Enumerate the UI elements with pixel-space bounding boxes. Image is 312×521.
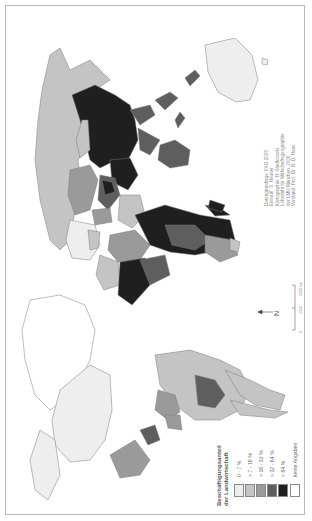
- legend-title-line1: Beschäftigungsanteil: [216, 445, 223, 506]
- north-label: N: [273, 311, 280, 316]
- legend-swatch-no-data: [290, 484, 300, 497]
- region-australia: [158, 140, 190, 168]
- scale-label-0: 0: [299, 331, 303, 333]
- credit-line: Vorstand: Prof. Dr. H.-D. Haas: [291, 133, 296, 206]
- legend-title-line2: der Landwirtschaft: [223, 445, 230, 506]
- region-eastern-europe: [88, 230, 100, 250]
- legend-swatch-0-7: [234, 484, 244, 497]
- region-central-america: [140, 425, 160, 445]
- region-north-africa: [108, 230, 150, 262]
- world-map: [0, 0, 312, 521]
- region-kazakhstan: [68, 165, 98, 215]
- legend-label-16-32: > 16 - 32 %: [258, 450, 264, 477]
- region-turkey: [92, 208, 112, 225]
- credit-line: Lehrstuhl für Wirtschaftsgeographie: [280, 133, 285, 206]
- legend-swatch-32-64: [267, 484, 277, 497]
- region-indochina: [138, 128, 160, 155]
- legend-label-0-7: 0 - 7 %: [236, 461, 242, 477]
- legend-swatch-7-16: [245, 484, 255, 497]
- region-greenland: [205, 38, 258, 102]
- region-ecuador: [165, 415, 182, 430]
- legend-label-7-16: > 7 - 16 %: [247, 453, 253, 477]
- legend-swatch-16-32: [256, 484, 266, 497]
- legend-title: Beschäftigungsanteil der Landwirtschaft: [216, 445, 230, 506]
- legend-label-32-64: > 32 - 64 %: [269, 450, 275, 477]
- legend-label-no-data: keine Angaben: [292, 443, 298, 477]
- region-iceland: [262, 58, 268, 65]
- region-mexico: [110, 440, 150, 478]
- legend-swatch-over-64: [278, 484, 288, 497]
- region-philippines: [175, 112, 185, 128]
- region-south-africa: [230, 238, 240, 252]
- scale-label-1250: 1250: [299, 306, 303, 314]
- scale-label-2500: 2500 km: [299, 282, 303, 296]
- north-arrow-icon: [258, 310, 273, 314]
- scale-bar: [292, 285, 295, 330]
- region-indonesia: [155, 92, 178, 110]
- legend-label-over-64: > 64 %: [280, 461, 286, 477]
- region-japan: [185, 70, 200, 86]
- credits-block: Datengrundlage: FAO 2005 Entwurf: S. Neu…: [264, 133, 296, 206]
